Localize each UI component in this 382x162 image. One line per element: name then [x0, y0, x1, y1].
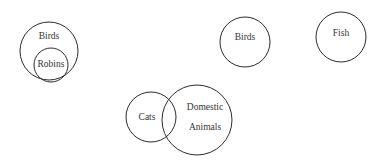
label-domestic-animals-line2: Animals	[189, 122, 221, 132]
label-cats: Cats	[139, 112, 156, 122]
set-diagram-svg: Birds Robins Birds Fish Cats Domestic An…	[0, 0, 382, 162]
group-fish-standalone: Fish	[316, 12, 366, 62]
group-birds-standalone: Birds	[220, 17, 270, 67]
set-diagram-canvas: Birds Robins Birds Fish Cats Domestic An…	[0, 0, 382, 162]
group-cats-domestic-animals: Cats Domestic Animals	[126, 85, 232, 155]
circle-domestic-animals[interactable]	[162, 85, 232, 155]
label-domestic-animals-line1: Domestic	[187, 102, 223, 112]
label-fish: Fish	[333, 28, 350, 38]
label-birds-outer: Birds	[39, 31, 60, 41]
label-robins-inner: Robins	[38, 59, 65, 69]
group-birds-robins-nested: Birds Robins	[20, 22, 78, 82]
label-birds-standalone: Birds	[235, 32, 256, 42]
